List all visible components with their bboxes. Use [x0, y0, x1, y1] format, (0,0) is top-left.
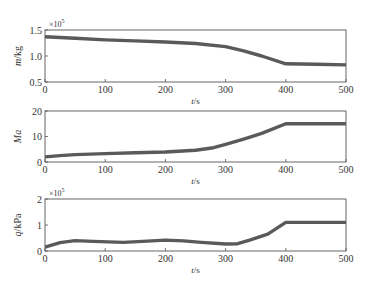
series-line-m: [45, 37, 346, 65]
y-tick-label: 0: [37, 157, 42, 168]
x-tick-label: 300: [218, 84, 233, 95]
x-tick-label: 0: [43, 84, 48, 95]
x-axis-label: t/s: [191, 265, 200, 275]
y-tick-label: 10: [32, 131, 42, 142]
x-axis-label: t/s: [191, 96, 200, 106]
x-tick-label: 200: [158, 164, 173, 175]
y-tick-label: 1: [37, 220, 42, 231]
y-tick-label: 1.0: [30, 51, 43, 62]
x-tick-label: 300: [218, 253, 233, 264]
y-tick-label: 2: [37, 194, 42, 205]
subplot-mass: 01002003004005000.51.01.5×105m/kgt/s: [12, 18, 354, 106]
x-tick-label: 100: [98, 253, 113, 264]
x-tick-label: 100: [98, 164, 113, 175]
chart-figure: 01002003004005000.51.01.5×105m/kgt/s0100…: [0, 0, 369, 282]
x-tick-label: 400: [278, 84, 293, 95]
x-tick-label: 400: [278, 253, 293, 264]
x-tick-label: 500: [339, 253, 354, 264]
x-tick-label: 200: [158, 84, 173, 95]
y-axis-label: q/kPa: [12, 213, 23, 236]
y-tick-label: 0: [37, 246, 42, 257]
y-tick-label: 1.5: [30, 25, 43, 36]
y-tick-label: 20: [32, 106, 42, 117]
series-line-ma: [45, 124, 346, 157]
x-tick-label: 500: [339, 84, 354, 95]
x-tick-label: 400: [278, 164, 293, 175]
x-tick-label: 500: [339, 164, 354, 175]
x-tick-label: 0: [43, 253, 48, 264]
x-tick-label: 0: [43, 164, 48, 175]
y-multiplier: ×105: [49, 18, 65, 29]
y-tick-label: 0.5: [30, 77, 43, 88]
x-tick-label: 300: [218, 164, 233, 175]
x-tick-label: 200: [158, 253, 173, 264]
x-tick-label: 100: [98, 84, 113, 95]
y-axis-label: m/kg: [12, 46, 23, 66]
series-line-q: [45, 222, 346, 247]
x-axis-label: t/s: [191, 176, 200, 186]
y-axis-label: Ma: [12, 130, 23, 144]
subplot-mach: 010020030040050001020Mat/s: [12, 106, 354, 187]
y-multiplier: ×105: [49, 187, 65, 198]
subplot-dynamic-pressure: 0100200300400500012×105q/kPat/s: [12, 187, 354, 275]
